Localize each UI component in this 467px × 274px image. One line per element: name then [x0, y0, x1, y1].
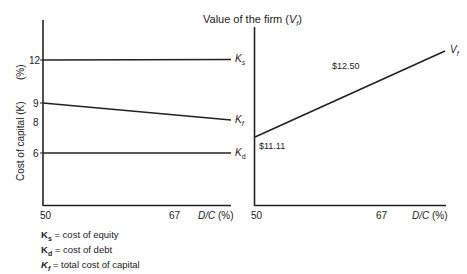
ytick-label-8: 8 [33, 117, 39, 128]
series-ks-line [43, 60, 231, 61]
series-kf-line [43, 103, 231, 120]
kf-var: K [235, 114, 242, 125]
series-label-vf: Vf [450, 44, 459, 59]
ytick-label-6: 6 [33, 148, 39, 159]
right-xaxis-label: D/C (%) [412, 210, 448, 221]
vf-var: V [450, 44, 457, 55]
y-axis-unit: (%) [15, 64, 26, 80]
left-xaxis-unit: (%) [218, 210, 234, 221]
kd-var: K [235, 147, 242, 158]
left-xaxis-var: D/C [198, 210, 215, 221]
legend-ks-var: K [41, 229, 48, 240]
right-xtick-67: 67 [376, 210, 387, 221]
legend-kf-var: K [41, 259, 48, 270]
ytick-label-9: 9 [33, 98, 39, 109]
legend-item-kd: Kd = cost of debt [41, 244, 140, 259]
right-xaxis-unit: (%) [432, 210, 448, 221]
legend-ks-text: = cost of equity [52, 229, 119, 240]
vf-sub: f [457, 50, 459, 57]
kf-sub: f [242, 120, 244, 127]
left-xtick-50: 50 [40, 210, 51, 221]
legend-kd-text: = cost of debt [52, 244, 112, 255]
legend-kf-text: = total cost of capital [50, 259, 140, 270]
legend-item-ks: Ks = cost of equity [41, 229, 140, 244]
left-xaxis-label: D/C (%) [198, 210, 234, 221]
left-xtick-67: 67 [169, 210, 180, 221]
ks-var: K [235, 53, 242, 64]
y-axis-label: Cost of capital (K) [15, 102, 26, 181]
annotation-11-11: $11.11 [259, 141, 285, 152]
legend-kd-var: K [41, 244, 48, 255]
right-xtick-50: 50 [251, 210, 262, 221]
series-label-kf: Kf [235, 114, 244, 129]
series-label-kd: Kd [235, 147, 246, 162]
ytick-label-12: 12 [29, 55, 40, 66]
legend: Ks = cost of equity Kd = cost of debt Kf… [41, 229, 140, 274]
ks-sub: s [242, 59, 246, 66]
legend-item-kf: Kf = total cost of capital [41, 259, 140, 274]
right-xaxis-var: D/C [412, 210, 429, 221]
annotation-12-50: $12.50 [332, 61, 360, 72]
series-label-ks: Ks [235, 53, 245, 68]
kd-sub: d [242, 153, 246, 160]
